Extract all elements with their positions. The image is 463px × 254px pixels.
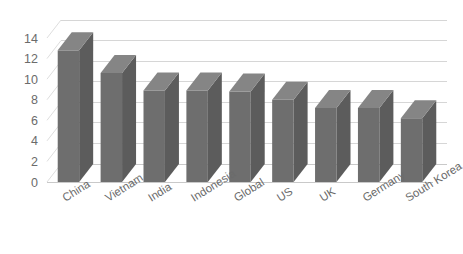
bar-front-face — [186, 90, 207, 182]
bar-front-face — [358, 108, 379, 182]
bar-chart: 02468101214 ChinaVietnamIndiaIndonesiaGl… — [0, 0, 463, 254]
bar — [144, 72, 179, 182]
bar-side-face — [251, 73, 265, 182]
bar-front-face — [58, 50, 79, 182]
y-tick-label: 6 — [31, 114, 38, 128]
bar — [401, 100, 436, 182]
bar-front-face — [144, 90, 165, 182]
y-tick-label: 14 — [24, 32, 38, 46]
bar-side-face — [165, 72, 179, 182]
bar — [101, 55, 136, 182]
bar-side-face — [122, 55, 136, 182]
bar-front-face — [229, 91, 250, 182]
y-tick-label: 2 — [31, 155, 38, 169]
bar-front-face — [401, 118, 422, 182]
bar-side-face — [79, 32, 93, 182]
y-tick-label: 10 — [24, 73, 38, 87]
bar-front-face — [315, 108, 336, 182]
bar — [229, 73, 264, 182]
y-tick-label: 0 — [31, 176, 38, 190]
bar — [315, 90, 350, 182]
bar — [186, 72, 221, 182]
bar-front-face — [272, 100, 293, 182]
y-tick-label: 8 — [31, 93, 38, 107]
chart-canvas: 02468101214 ChinaVietnamIndiaIndonesiaGl… — [0, 0, 463, 254]
bar-front-face — [101, 73, 122, 182]
bar — [358, 90, 393, 182]
y-tick-label: 4 — [31, 134, 38, 148]
bar — [58, 32, 93, 182]
bar-side-face — [208, 72, 222, 182]
bar — [272, 82, 307, 182]
y-tick-label: 12 — [24, 52, 38, 66]
